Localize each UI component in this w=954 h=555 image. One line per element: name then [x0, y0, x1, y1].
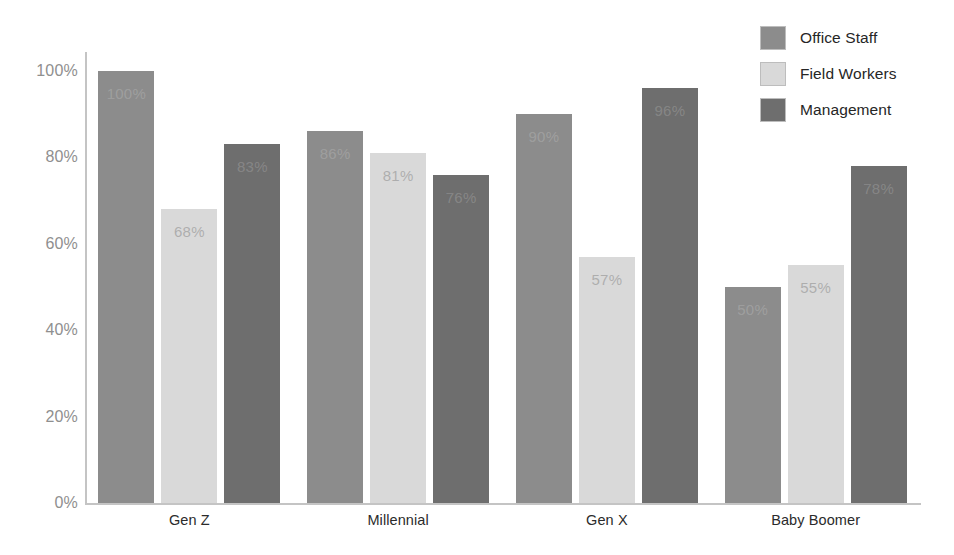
bar[interactable]: 76%	[433, 175, 489, 503]
x-axis-category-label: Gen X	[503, 512, 712, 528]
y-axis-tick-label: 60%	[6, 235, 78, 253]
bar[interactable]: 68%	[161, 209, 217, 503]
bar[interactable]: 96%	[642, 88, 698, 503]
y-axis-tick-label: 20%	[6, 408, 78, 426]
bar-chart: Office StaffField WorkersManagement 0%20…	[0, 0, 954, 555]
x-axis-category-label: Baby Boomer	[711, 512, 920, 528]
bar[interactable]: 50%	[725, 287, 781, 503]
bar[interactable]: 78%	[851, 166, 907, 503]
bar-value-label: 96%	[642, 102, 698, 119]
bar-value-label: 81%	[370, 167, 426, 184]
legend-label: Office Staff	[800, 29, 877, 47]
bar-group: 90%57%96%	[516, 71, 698, 503]
x-axis-category-label: Millennial	[294, 512, 503, 528]
legend-swatch-icon	[760, 26, 786, 50]
x-axis-line	[85, 503, 921, 505]
y-axis-tick-label: 40%	[6, 321, 78, 339]
bar-value-label: 76%	[433, 189, 489, 206]
bar-value-label: 78%	[851, 180, 907, 197]
bar[interactable]: 81%	[370, 153, 426, 503]
y-axis-tick-label: 100%	[6, 62, 78, 80]
bar-value-label: 86%	[307, 145, 363, 162]
bar[interactable]: 90%	[516, 114, 572, 503]
bar-value-label: 68%	[161, 223, 217, 240]
bar[interactable]: 57%	[579, 257, 635, 503]
x-axis-category-label: Gen Z	[85, 512, 294, 528]
bar-value-label: 50%	[725, 301, 781, 318]
bar[interactable]: 86%	[307, 131, 363, 503]
bar[interactable]: 55%	[788, 265, 844, 503]
y-axis-ticks: 0%20%40%60%80%100%	[0, 0, 78, 555]
bar-value-label: 90%	[516, 128, 572, 145]
legend-item[interactable]: Office Staff	[760, 26, 897, 50]
bar-group: 86%81%76%	[307, 71, 489, 503]
bar-value-label: 57%	[579, 271, 635, 288]
bar[interactable]: 83%	[224, 144, 280, 503]
bar-value-label: 83%	[224, 158, 280, 175]
bar-group: 100%68%83%	[98, 71, 280, 503]
bar-value-label: 55%	[788, 279, 844, 296]
bar[interactable]: 100%	[98, 71, 154, 503]
bar-value-label: 100%	[98, 85, 154, 102]
y-axis-tick-label: 0%	[6, 494, 78, 512]
y-axis-tick-label: 80%	[6, 148, 78, 166]
plot-area: 100%68%83%86%81%76%90%57%96%50%55%78%	[85, 71, 920, 503]
bar-group: 50%55%78%	[725, 71, 907, 503]
